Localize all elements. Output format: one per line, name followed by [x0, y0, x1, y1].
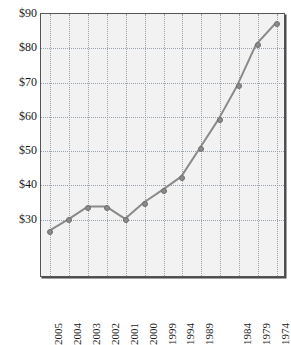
x-tick-label: 2004 [72, 323, 83, 345]
plot-area [40, 13, 285, 277]
x-tick-label: 2005 [53, 323, 64, 345]
data-point [217, 117, 223, 123]
x-tick-label: 1974 [280, 323, 291, 345]
x-tick-label: 1979 [261, 323, 272, 345]
x-tick-label: 2000 [148, 323, 159, 345]
series-line [41, 14, 284, 276]
y-tick-label: $50 [1, 144, 37, 156]
data-point [161, 188, 167, 194]
x-tick-label: 1999 [167, 323, 178, 345]
data-point [255, 42, 261, 48]
y-tick-label: $70 [1, 76, 37, 88]
data-point [142, 201, 148, 207]
x-tick-label: 1984 [242, 323, 253, 345]
data-point [274, 21, 280, 27]
x-axis: 2005200420032002200120001999199419891984… [40, 279, 285, 327]
data-point [236, 83, 242, 89]
x-tick-label: 1994 [185, 323, 196, 345]
y-axis: $30$40$50$60$70$80$90 [0, 13, 37, 277]
y-tick-label: $30 [1, 213, 37, 225]
y-tick-label: $80 [1, 41, 37, 53]
x-tick-label: 2003 [91, 323, 102, 345]
y-tick-label: $40 [1, 178, 37, 190]
y-tick-label: $90 [1, 7, 37, 19]
x-tick-label: 2001 [129, 323, 140, 345]
y-tick-label: $60 [1, 110, 37, 122]
x-tick-label: 2002 [110, 323, 121, 345]
x-tick-label: 1989 [204, 323, 215, 345]
data-point [104, 205, 110, 211]
chart-title-remnant [60, 0, 285, 9]
